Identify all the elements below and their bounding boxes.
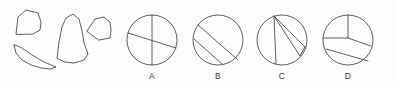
loose-pieces-group	[14, 10, 111, 69]
option-label-a: A	[149, 71, 155, 81]
small-sector-piece	[87, 17, 111, 40]
answer-choice-c[interactable]: C	[257, 15, 307, 81]
puzzle-canvas: ABCD	[0, 0, 395, 86]
option-label-c: C	[279, 71, 285, 81]
answer-choice-b[interactable]: B	[193, 15, 243, 81]
cone-piece	[57, 14, 88, 63]
apex-chord-middle	[274, 16, 300, 56]
option-label-b: B	[215, 71, 221, 81]
answer-choices-group: ABCD	[127, 15, 373, 81]
diagonal-radius-right	[348, 38, 371, 46]
apex-chord-right	[274, 16, 305, 47]
option-label-d: D	[345, 71, 351, 81]
answer-choice-d[interactable]: D	[323, 15, 373, 81]
crescent-segment-piece	[14, 45, 56, 69]
answer-choice-a[interactable]: A	[127, 15, 177, 81]
upper-diagonal-chord	[198, 25, 238, 60]
apex-chord-left	[274, 16, 276, 64]
circle-outline-c	[257, 15, 307, 65]
quarter-sector-piece	[16, 10, 41, 34]
puzzle-figure: ABCD	[0, 0, 395, 86]
